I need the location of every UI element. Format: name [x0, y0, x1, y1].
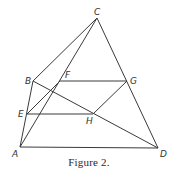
geometry-figure: A B C D E F G H [0, 0, 178, 178]
label-e: E [18, 109, 24, 119]
label-c: C [94, 7, 101, 17]
label-h: H [86, 116, 93, 126]
figure-caption: Figure 2. [0, 156, 178, 168]
segment-ad [20, 147, 158, 148]
segment-cd [97, 18, 158, 148]
figure-segments [20, 18, 158, 148]
label-f: F [65, 70, 71, 80]
point-labels: A B C D E F G H [11, 7, 167, 159]
label-b: B [25, 76, 31, 86]
segment-gh [93, 81, 127, 114]
label-g: G [130, 76, 137, 86]
